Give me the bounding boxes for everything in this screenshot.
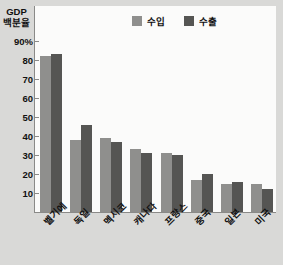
x-axis-tick-label: 프랑스: [161, 199, 190, 228]
y-axis-tick-mark: [34, 136, 39, 137]
y-axis-tick-mark: [34, 174, 39, 175]
y-axis-tick-mark: [34, 98, 39, 99]
y-axis-tick-mark: [34, 79, 39, 80]
x-axis-tick-label: 멕시코: [100, 199, 129, 228]
bar-chart: GDP 백분율 90%8070605040302010 수입수출 벨기에독일멕시…: [0, 0, 283, 265]
x-axis-tick-label: 미국: [251, 205, 274, 228]
x-axis-tick-label: 벨기에: [40, 199, 69, 228]
x-axis-tick-label: 중국: [191, 205, 214, 228]
x-axis-tick-label: 캐나다: [130, 199, 159, 228]
y-axis-tick-mark: [34, 117, 39, 118]
y-axis-tick-mark: [34, 155, 39, 156]
x-axis-labels: 벨기에독일멕시코캐나다프랑스중국일본미국: [0, 0, 283, 265]
x-axis-tick-label: 독일: [70, 205, 93, 228]
x-axis-tick-label: 일본: [221, 205, 244, 228]
y-axis-tick-mark: [34, 41, 39, 42]
y-axis-tick-mark: [34, 60, 39, 61]
y-axis-tick-mark: [34, 193, 39, 194]
